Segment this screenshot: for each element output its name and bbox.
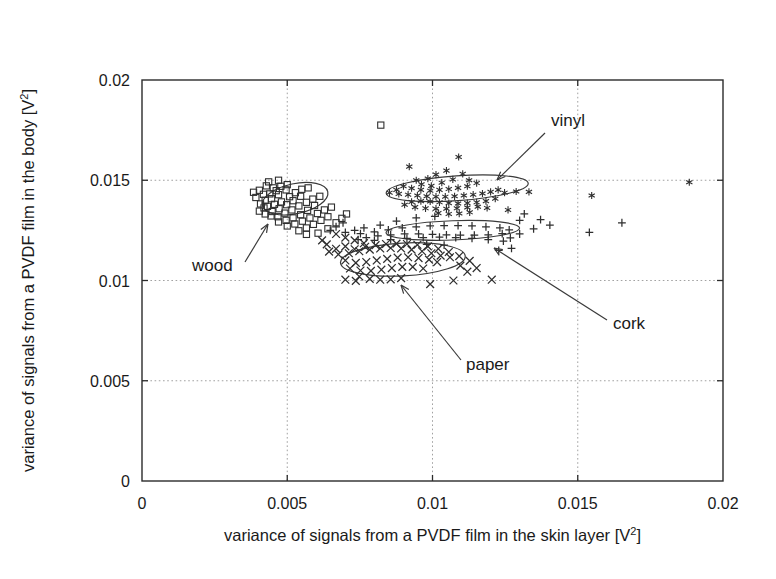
x-ticklabel: 0.02 xyxy=(707,495,738,512)
data-point xyxy=(460,170,466,177)
y-ticklabel: 0.015 xyxy=(90,172,130,189)
data-point xyxy=(351,237,359,245)
data-point xyxy=(520,210,528,218)
data-point xyxy=(450,176,456,183)
data-point xyxy=(451,193,457,200)
arrow-head-wood xyxy=(261,224,268,233)
data-point xyxy=(505,206,511,213)
annotation-label-cork: cork xyxy=(613,314,646,333)
data-point xyxy=(328,204,334,210)
data-point xyxy=(374,232,382,240)
data-point xyxy=(455,184,461,191)
data-point xyxy=(397,274,405,282)
data-point xyxy=(305,185,311,191)
data-point xyxy=(419,265,427,273)
data-point xyxy=(303,231,309,237)
data-point xyxy=(412,204,418,211)
data-point xyxy=(263,183,269,189)
data-point xyxy=(406,163,412,170)
data-point xyxy=(321,207,327,213)
data-point xyxy=(393,217,401,225)
data-point xyxy=(530,225,538,233)
data-point xyxy=(366,275,374,283)
data-point xyxy=(461,192,467,199)
data-point xyxy=(488,276,496,284)
data-point xyxy=(310,196,316,202)
data-point xyxy=(376,221,384,229)
y-ticklabel: 0.01 xyxy=(99,273,130,290)
data-point xyxy=(412,214,420,222)
data-point xyxy=(585,228,593,236)
data-point xyxy=(352,277,360,285)
data-point xyxy=(508,245,516,253)
data-point xyxy=(339,219,347,227)
data-point xyxy=(299,186,305,192)
data-point xyxy=(466,257,474,265)
data-point xyxy=(404,253,412,261)
data-point xyxy=(408,246,416,254)
data-point xyxy=(425,256,433,264)
data-point xyxy=(506,234,514,242)
data-point xyxy=(401,201,407,208)
data-point xyxy=(426,222,434,230)
data-point xyxy=(418,186,424,193)
data-point xyxy=(456,153,462,160)
y-ticklabel: 0.005 xyxy=(90,373,130,390)
data-point xyxy=(434,245,442,253)
data-point xyxy=(373,257,381,265)
svg-text:variance of signals from a PVD: variance of signals from a PVDF film in … xyxy=(224,525,641,544)
leader-line-wood xyxy=(245,224,268,262)
data-point xyxy=(408,198,414,205)
data-point xyxy=(426,280,434,288)
data-point xyxy=(455,252,463,260)
data-point xyxy=(470,191,476,198)
leader-line-cork xyxy=(494,248,607,320)
data-point xyxy=(292,221,298,227)
data-point xyxy=(487,188,493,195)
data-point xyxy=(388,264,396,272)
data-point xyxy=(315,230,321,236)
data-point xyxy=(463,268,471,276)
data-point xyxy=(371,228,379,236)
data-point xyxy=(314,210,320,216)
data-point xyxy=(341,276,349,284)
data-point xyxy=(526,188,532,195)
x-ticklabel: 0 xyxy=(138,495,147,512)
data-point xyxy=(405,191,411,198)
annotation-label-paper: paper xyxy=(466,355,510,374)
data-point xyxy=(318,237,326,245)
data-point xyxy=(367,267,375,275)
data-point xyxy=(377,266,385,274)
data-point xyxy=(408,185,414,192)
plot-canvas: 00.0050.010.0150.0200.0050.010.0150.02wo… xyxy=(0,0,776,579)
data-point xyxy=(546,221,554,229)
data-point xyxy=(445,248,453,256)
data-point xyxy=(433,193,439,200)
data-point xyxy=(589,192,595,199)
data-point xyxy=(360,224,368,232)
annotation-label-vinyl: vinyl xyxy=(551,111,585,130)
data-point xyxy=(686,179,692,186)
data-point xyxy=(429,230,437,238)
data-point xyxy=(376,276,384,284)
data-point xyxy=(450,277,458,285)
data-point xyxy=(341,257,349,265)
data-point xyxy=(332,230,340,238)
data-point xyxy=(422,205,428,212)
data-point xyxy=(482,223,490,231)
data-point xyxy=(468,222,476,230)
data-point xyxy=(442,193,448,200)
data-point xyxy=(394,254,402,262)
data-point xyxy=(378,122,384,128)
x-axis-title: variance of signals from a PVDF film in … xyxy=(224,525,641,544)
data-point xyxy=(473,264,481,272)
data-point xyxy=(454,222,462,230)
data-point xyxy=(495,186,501,193)
leader-line-paper xyxy=(401,285,461,360)
series-wood xyxy=(250,122,383,237)
data-point xyxy=(275,192,281,198)
data-point xyxy=(398,263,406,271)
leader-line-vinyl xyxy=(497,133,545,180)
svg-text:variance of signals from a PVD: variance of signals from a PVDF film in … xyxy=(18,89,37,472)
x-ticklabel: 0.005 xyxy=(267,495,307,512)
